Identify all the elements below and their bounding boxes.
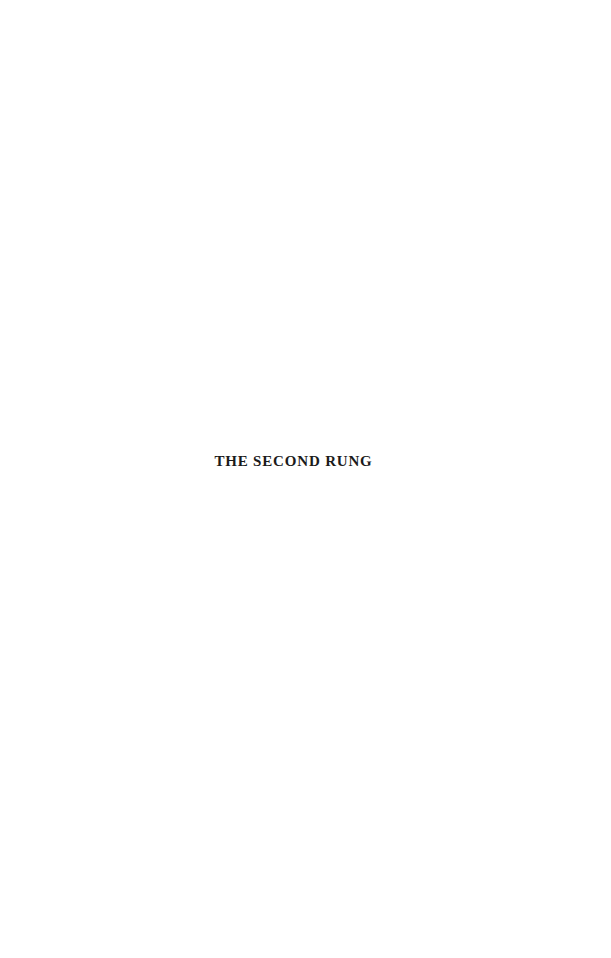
part-title-block: THE SECOND RUNG (0, 451, 611, 471)
part-title-text: THE SECOND RUNG (214, 451, 372, 471)
book-page: THE SECOND RUNG (0, 0, 611, 958)
